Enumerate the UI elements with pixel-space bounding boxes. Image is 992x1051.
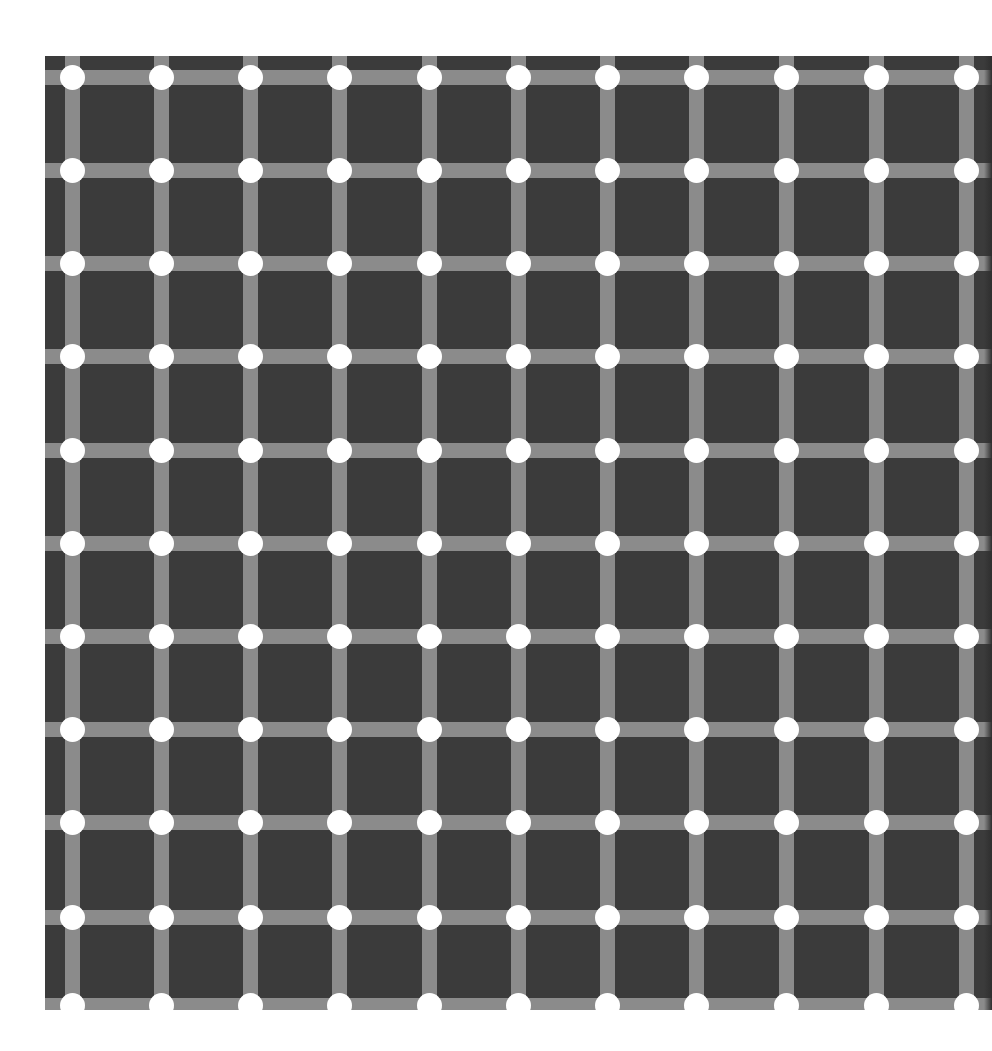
- intersection-dot: [60, 251, 85, 276]
- intersection-dot: [954, 717, 979, 742]
- intersection-dot: [954, 531, 979, 556]
- intersection-dot: [864, 344, 889, 369]
- intersection-dot: [417, 158, 442, 183]
- intersection-dot: [595, 438, 620, 463]
- intersection-dot: [238, 810, 263, 835]
- intersection-dot: [149, 158, 174, 183]
- intersection-dot: [238, 251, 263, 276]
- intersection-dot: [506, 531, 531, 556]
- intersection-dot: [149, 344, 174, 369]
- intersection-dot: [684, 810, 709, 835]
- intersection-dot: [864, 905, 889, 930]
- intersection-dot: [238, 717, 263, 742]
- intersection-dot: [684, 251, 709, 276]
- intersection-dot: [954, 624, 979, 649]
- intersection-dot: [774, 810, 799, 835]
- intersection-dot: [864, 717, 889, 742]
- intersection-dot: [417, 624, 442, 649]
- intersection-dot: [149, 251, 174, 276]
- intersection-dot: [149, 810, 174, 835]
- intersection-dot: [327, 158, 352, 183]
- intersection-dot: [506, 624, 531, 649]
- intersection-dot: [60, 158, 85, 183]
- intersection-dot: [864, 251, 889, 276]
- intersection-dot: [595, 717, 620, 742]
- intersection-dot: [417, 438, 442, 463]
- intersection-dot: [327, 531, 352, 556]
- intersection-dot: [774, 717, 799, 742]
- intersection-dot: [149, 65, 174, 90]
- intersection-dot: [238, 624, 263, 649]
- intersection-dot: [864, 65, 889, 90]
- intersection-dot: [60, 905, 85, 930]
- intersection-dot: [506, 717, 531, 742]
- intersection-dot: [864, 993, 889, 1011]
- intersection-dot: [238, 158, 263, 183]
- intersection-dot: [506, 65, 531, 90]
- intersection-dot: [238, 993, 263, 1011]
- intersection-dot: [238, 438, 263, 463]
- intersection-dot: [60, 717, 85, 742]
- intersection-dot: [684, 905, 709, 930]
- intersection-dot: [60, 344, 85, 369]
- intersection-dot: [417, 905, 442, 930]
- intersection-dot: [238, 65, 263, 90]
- intersection-dot: [417, 65, 442, 90]
- intersection-dot: [684, 717, 709, 742]
- intersection-dot: [595, 531, 620, 556]
- intersection-dot: [327, 344, 352, 369]
- intersection-dot: [864, 624, 889, 649]
- intersection-dot: [864, 531, 889, 556]
- intersection-dot: [417, 810, 442, 835]
- intersection-dot: [774, 438, 799, 463]
- intersection-dot: [506, 344, 531, 369]
- intersection-dot: [864, 810, 889, 835]
- intersection-dot: [417, 993, 442, 1011]
- intersection-dot: [774, 993, 799, 1011]
- intersection-dot: [774, 251, 799, 276]
- intersection-dot: [684, 531, 709, 556]
- intersection-dot: [684, 65, 709, 90]
- intersection-dot: [60, 993, 85, 1011]
- intersection-dot: [149, 905, 174, 930]
- intersection-dot: [954, 65, 979, 90]
- intersection-dot: [149, 624, 174, 649]
- intersection-dot: [327, 251, 352, 276]
- intersection-dot: [327, 624, 352, 649]
- intersection-dot: [595, 624, 620, 649]
- intersection-dot: [684, 624, 709, 649]
- intersection-dot: [149, 438, 174, 463]
- intersection-dot: [864, 438, 889, 463]
- intersection-dot: [774, 905, 799, 930]
- intersection-dot: [506, 810, 531, 835]
- intersection-dot: [60, 624, 85, 649]
- intersection-dot: [149, 531, 174, 556]
- intersection-dot: [595, 65, 620, 90]
- intersection-dot: [864, 158, 889, 183]
- intersection-dot: [506, 438, 531, 463]
- intersection-dot: [327, 810, 352, 835]
- intersection-dot: [327, 65, 352, 90]
- intersection-dot: [238, 905, 263, 930]
- intersection-dot: [595, 993, 620, 1011]
- intersection-dot: [506, 905, 531, 930]
- intersection-dot: [149, 717, 174, 742]
- intersection-dot: [238, 344, 263, 369]
- intersection-dot: [684, 158, 709, 183]
- intersection-dot: [327, 717, 352, 742]
- intersection-dot: [506, 251, 531, 276]
- intersection-dot: [684, 438, 709, 463]
- intersection-dot: [327, 905, 352, 930]
- intersection-dot: [595, 251, 620, 276]
- intersection-dot: [774, 531, 799, 556]
- intersection-dot: [774, 158, 799, 183]
- intersection-dot: [774, 624, 799, 649]
- intersection-dot: [327, 993, 352, 1011]
- intersection-dot: [417, 717, 442, 742]
- intersection-dot: [417, 344, 442, 369]
- intersection-dot: [954, 810, 979, 835]
- intersection-dot: [774, 344, 799, 369]
- intersection-dot: [954, 251, 979, 276]
- intersection-dot: [506, 158, 531, 183]
- intersection-dot: [238, 531, 263, 556]
